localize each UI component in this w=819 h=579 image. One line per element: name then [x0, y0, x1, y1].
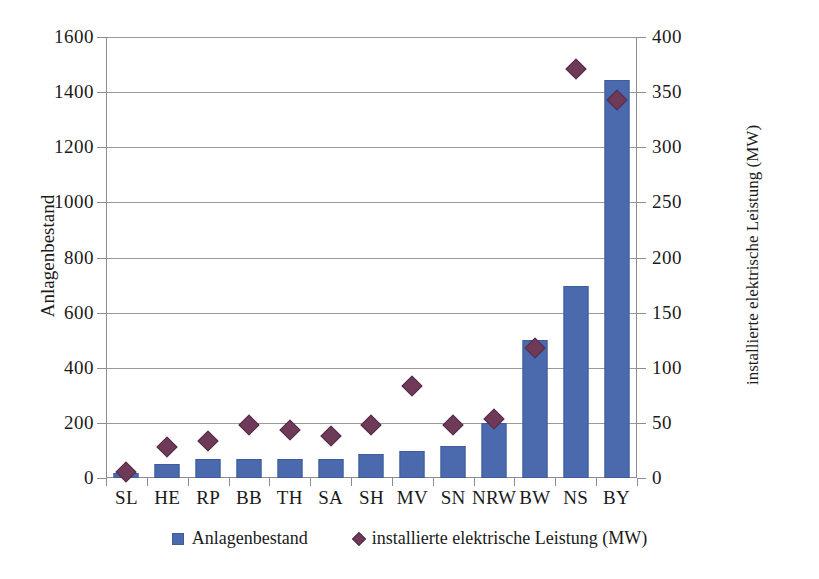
chart-column[interactable] [147, 37, 188, 478]
secondary-y-axis-tick-mark [637, 478, 646, 479]
y-axis-tick-label: 1000 [54, 192, 94, 211]
bar-by[interactable] [604, 80, 629, 478]
legend-label: installierte elektrische Leistung (MW) [372, 528, 647, 549]
diamond-marker-he[interactable] [157, 436, 178, 457]
y-axis-tick-label: 600 [64, 303, 94, 322]
secondary-y-axis-tick-label: 150 [652, 303, 682, 322]
chart-column[interactable] [392, 37, 433, 478]
bar-ns[interactable] [563, 286, 588, 478]
x-axis-label-by: BY [603, 487, 630, 509]
secondary-y-axis-tick-label: 350 [652, 82, 682, 101]
bar-bb[interactable] [236, 459, 261, 478]
bar-bw[interactable] [522, 340, 547, 478]
secondary-y-axis-tick-label: 200 [652, 248, 682, 267]
y-axis-tick-mark [97, 202, 106, 203]
y-axis-tick-label: 400 [64, 358, 94, 377]
chart-legend: Anlagenbestandinstallierte elektrische L… [0, 528, 819, 549]
legend-item-1[interactable]: Anlagenbestand [172, 528, 308, 549]
x-axis-tick-mark [433, 478, 434, 486]
x-axis-tick-mark [637, 478, 638, 486]
chart-column[interactable] [106, 37, 147, 478]
diamond-marker-rp[interactable] [198, 431, 219, 452]
chart-column[interactable] [514, 37, 555, 478]
y-axis-tick-mark [97, 313, 106, 314]
x-axis-label-sn: SN [441, 487, 466, 509]
diamond-marker-sl[interactable] [116, 462, 137, 483]
x-axis-tick-mark [188, 478, 189, 486]
diamond-marker-sn[interactable] [443, 414, 464, 435]
secondary-y-axis-tick-mark [637, 423, 646, 424]
diamond-marker-ns[interactable] [565, 58, 586, 79]
chart-column[interactable] [596, 37, 637, 478]
legend-square-icon [172, 533, 184, 545]
secondary-y-axis-tick-mark [637, 313, 646, 314]
x-axis-tick-mark [269, 478, 270, 486]
chart-column[interactable] [351, 37, 392, 478]
diamond-marker-mv[interactable] [402, 376, 423, 397]
diamond-marker-th[interactable] [279, 420, 300, 441]
secondary-y-axis-tick-mark [637, 147, 646, 148]
y-axis-tick-label: 200 [64, 413, 94, 432]
bar-mv[interactable] [400, 451, 425, 478]
x-axis-label-mv: MV [397, 487, 428, 509]
diamond-marker-bb[interactable] [238, 414, 259, 435]
bar-sh[interactable] [359, 454, 384, 478]
y-axis-title: Anlagenbestand [37, 146, 59, 366]
y-axis-tick-label: 800 [64, 248, 94, 267]
legend-diamond-icon [352, 531, 366, 545]
y-axis-tick-label: 0 [84, 468, 94, 487]
y-axis-tick-mark [97, 37, 106, 38]
legend-item-2[interactable]: installierte elektrische Leistung (MW) [354, 528, 647, 549]
secondary-y-axis-tick-mark [637, 258, 646, 259]
x-axis-tick-mark [392, 478, 393, 486]
diamond-marker-sa[interactable] [320, 425, 341, 446]
y-axis-tick-label: 1400 [54, 82, 94, 101]
y-axis-tick-label: 1200 [54, 137, 94, 156]
y-axis-tick-mark [97, 92, 106, 93]
secondary-y-axis-tick-mark [637, 202, 646, 203]
x-axis-label-he: HE [154, 487, 180, 509]
chart-column[interactable] [310, 37, 351, 478]
chart-column[interactable] [433, 37, 474, 478]
x-axis-tick-mark [596, 478, 597, 486]
chart-column[interactable] [474, 37, 515, 478]
bar-nrw[interactable] [482, 423, 507, 478]
x-axis-label-ns: NS [563, 487, 588, 509]
x-axis-tick-mark [229, 478, 230, 486]
bar-sa[interactable] [318, 459, 343, 478]
secondary-y-axis-tick-mark [637, 92, 646, 93]
x-axis-label-bw: BW [519, 487, 550, 509]
y-axis-tick-mark [97, 478, 106, 479]
secondary-y-axis-tick-label: 100 [652, 358, 682, 377]
bar-rp[interactable] [196, 459, 221, 478]
legend-label: Anlagenbestand [192, 528, 308, 549]
secondary-y-axis-tick-label: 400 [652, 27, 682, 46]
x-axis-tick-mark [514, 478, 515, 486]
y-axis-tick-label: 1600 [54, 27, 94, 46]
x-axis-label-bb: BB [236, 487, 262, 509]
x-axis-tick-mark [147, 478, 148, 486]
y-axis-tick-mark [97, 368, 106, 369]
bar-he[interactable] [155, 464, 180, 478]
secondary-y-axis-tick-mark [637, 368, 646, 369]
secondary-y-axis-tick-label: 250 [652, 192, 682, 211]
y-axis-tick-mark [97, 423, 106, 424]
x-axis-tick-mark [474, 478, 475, 486]
bar-sn[interactable] [441, 446, 466, 478]
chart-column[interactable] [269, 37, 310, 478]
y-axis-tick-mark [97, 147, 106, 148]
secondary-y-axis-tick-mark [637, 37, 646, 38]
x-axis-label-th: TH [277, 487, 303, 509]
chart-container: Anlagenbestand installierte elektrische … [0, 0, 819, 579]
x-axis-tick-mark [555, 478, 556, 486]
x-axis-label-nrw: NRW [472, 487, 516, 509]
chart-column[interactable] [555, 37, 596, 478]
secondary-y-axis-tick-label: 300 [652, 137, 682, 156]
diamond-marker-sh[interactable] [361, 414, 382, 435]
chart-column[interactable] [229, 37, 270, 478]
x-axis-label-rp: RP [196, 487, 220, 509]
secondary-y-axis-tick-label: 0 [652, 468, 662, 487]
chart-column[interactable] [188, 37, 229, 478]
bar-th[interactable] [277, 459, 302, 478]
x-axis-label-sh: SH [359, 487, 384, 509]
